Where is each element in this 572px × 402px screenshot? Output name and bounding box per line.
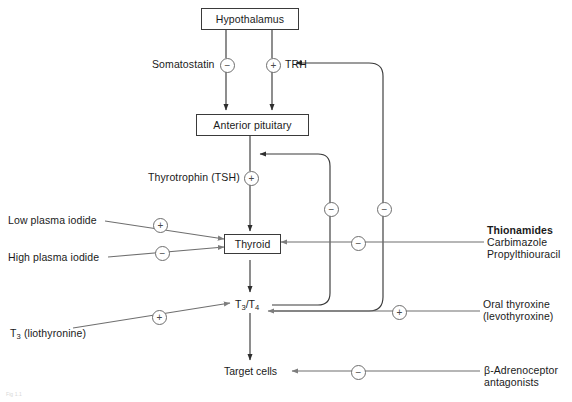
edge-feedback-to-hypothalamus xyxy=(272,63,383,311)
label-trh: TRH xyxy=(285,58,307,71)
sign-trh-stimulate: + xyxy=(266,58,281,73)
figure-caption: Fig 1.1 xyxy=(6,391,22,397)
node-t3-t4[interactable]: T3/T4 xyxy=(235,298,259,312)
diagram-canvas: Hypothalamus Anterior pituitary Thyroid … xyxy=(0,0,572,402)
node-anterior-pituitary-label: Anterior pituitary xyxy=(213,119,291,131)
node-target-cells-label: Target cells xyxy=(224,365,277,377)
sign-thionamides-inhibit: − xyxy=(351,236,366,251)
sign-oral-thyroxine-stimulate: + xyxy=(392,305,407,320)
label-t3-liothyronine: T3 (liothyronine) xyxy=(10,327,86,342)
sign-feedback-hypothalamus-inhibit: − xyxy=(377,202,392,217)
node-target-cells[interactable]: Target cells xyxy=(224,365,277,377)
label-oral-thyroxine-line2: (levothyroxine) xyxy=(483,310,553,323)
label-somatostatin: Somatostatin xyxy=(152,58,215,71)
label-low-plasma-iodide: Low plasma iodide xyxy=(8,214,97,227)
sign-tsh-stimulate: + xyxy=(244,171,259,186)
edge-feedback-to-pituitary xyxy=(260,154,330,305)
node-t3-t4-label: T3/T4 xyxy=(235,298,259,310)
node-anterior-pituitary[interactable]: Anterior pituitary xyxy=(196,114,309,136)
node-thyroid[interactable]: Thyroid xyxy=(224,234,281,254)
node-hypothalamus-label: Hypothalamus xyxy=(216,13,284,25)
node-thyroid-label: Thyroid xyxy=(235,238,271,250)
sign-somatostatin-inhibit: − xyxy=(220,58,235,73)
sign-low-iodide-stimulate: + xyxy=(153,218,168,233)
sign-t3-liothyronine-stimulate: + xyxy=(152,310,167,325)
label-high-plasma-iodide: High plasma iodide xyxy=(8,251,99,264)
label-thyrotrophin-tsh: Thyrotrophin (TSH) xyxy=(148,171,240,184)
sign-feedback-pituitary-inhibit: − xyxy=(324,202,339,217)
node-hypothalamus[interactable]: Hypothalamus xyxy=(201,8,299,30)
label-beta-antagonists-line2: antagonists xyxy=(484,376,539,389)
sign-high-iodide-inhibit: − xyxy=(155,246,170,261)
label-thionamides-item-propylthiouracil: Propylthiouracil xyxy=(487,248,560,261)
sign-beta-antagonists-inhibit: − xyxy=(351,365,366,380)
